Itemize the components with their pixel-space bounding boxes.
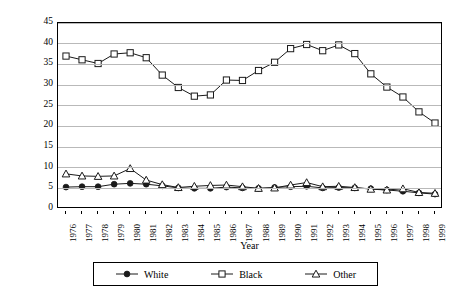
open-square-marker [288, 46, 294, 52]
x-tick-mark [145, 211, 146, 214]
gridline [58, 167, 441, 168]
x-tick-mark [225, 211, 226, 214]
open-square-marker [63, 53, 69, 59]
gridline [58, 126, 441, 127]
series-svg [58, 23, 443, 209]
y-tick-label: 40 [31, 38, 53, 48]
y-tick-label: 20 [31, 120, 53, 130]
x-tick-mark [402, 211, 403, 214]
x-tick-mark [209, 211, 210, 214]
legend-open-triangle-icon [304, 268, 328, 280]
x-axis-title: Year [57, 240, 442, 251]
y-axis-tick-labels: 051015202530354045 [27, 0, 53, 208]
x-tick-mark [177, 211, 178, 214]
y-tick-label: 35 [31, 58, 53, 68]
legend-label: White [144, 269, 168, 280]
y-tick-label: 15 [31, 141, 53, 151]
x-tick-mark [338, 211, 339, 214]
filled-circle-marker [127, 180, 133, 186]
open-square-marker [191, 93, 197, 99]
x-tick-mark [97, 211, 98, 214]
legend-item-other[interactable]: Other [304, 268, 356, 280]
series-other [62, 165, 439, 197]
y-tick-label: 5 [31, 182, 53, 192]
plot-area [57, 22, 442, 208]
gridline [58, 188, 441, 189]
filled-circle-marker [124, 271, 130, 277]
open-square-marker [320, 48, 326, 54]
gridline [58, 23, 441, 24]
gridline [58, 147, 441, 148]
open-square-marker [219, 271, 225, 277]
x-tick-mark [129, 211, 130, 214]
legend-item-black[interactable]: Black [210, 268, 262, 280]
open-triangle-marker [303, 179, 311, 186]
open-square-marker [400, 94, 406, 100]
open-triangle-marker [142, 176, 150, 183]
x-tick-mark [386, 211, 387, 214]
x-tick-mark [258, 211, 259, 214]
x-tick-mark [274, 211, 275, 214]
gridline [58, 43, 441, 44]
open-square-marker [352, 50, 358, 56]
open-square-marker [223, 77, 229, 83]
gridline [58, 64, 441, 65]
open-square-marker [79, 57, 85, 63]
y-tick-label: 0 [31, 203, 53, 213]
open-square-marker [143, 55, 149, 61]
x-tick-mark [81, 211, 82, 214]
x-tick-mark [306, 211, 307, 214]
x-tick-mark [418, 211, 419, 214]
open-square-marker [255, 67, 261, 73]
open-square-marker [239, 77, 245, 83]
open-square-marker [368, 71, 374, 77]
x-tick-mark [65, 211, 66, 214]
legend-filled-circle-icon [115, 268, 139, 280]
y-tick-label: 45 [31, 17, 53, 27]
open-square-marker [127, 50, 133, 56]
murder-rate-line-chart: Murder Rate/100,000 051015202530354045 1… [0, 0, 451, 296]
gridline [58, 105, 441, 106]
x-tick-mark [322, 211, 323, 214]
legend: WhiteBlackOther [93, 262, 378, 286]
open-square-marker [416, 109, 422, 115]
open-square-marker [159, 72, 165, 78]
x-tick-mark [161, 211, 162, 214]
legend-label: Other [333, 269, 356, 280]
y-tick-label: 25 [31, 100, 53, 110]
legend-label: Black [239, 269, 262, 280]
y-tick-label: 10 [31, 162, 53, 172]
open-triangle-marker [62, 170, 70, 177]
legend-item-white[interactable]: White [115, 268, 168, 280]
x-tick-mark [290, 211, 291, 214]
x-tick-mark [370, 211, 371, 214]
open-square-marker [207, 92, 213, 98]
y-tick-label: 30 [31, 79, 53, 89]
filled-circle-marker [111, 181, 117, 187]
x-tick-mark [434, 211, 435, 214]
x-tick-mark [113, 211, 114, 214]
x-tick-mark [241, 211, 242, 214]
x-tick-mark [193, 211, 194, 214]
series-line [66, 168, 435, 193]
gridline [58, 85, 441, 86]
x-tick-mark [354, 211, 355, 214]
open-square-marker [111, 51, 117, 57]
legend-open-square-icon [210, 268, 234, 280]
